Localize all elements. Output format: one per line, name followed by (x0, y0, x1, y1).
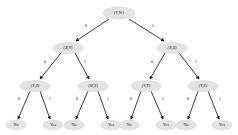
leaf-label: No (126, 122, 131, 127)
tree-edge: 0 (76, 91, 88, 119)
edge-label: 1 (84, 59, 87, 64)
tree-edge: 1 (75, 53, 89, 79)
tree-edge: 0 (76, 19, 109, 41)
tree-edge: 0 (130, 91, 141, 119)
tree-edge: 1 (98, 91, 110, 119)
edge-label: 0 (85, 23, 88, 28)
edge-label: 1 (107, 96, 110, 101)
tree-edge: 1 (129, 19, 164, 41)
tree-edge: 1 (40, 91, 52, 119)
decision-node[interactable]: (V,Y) (131, 80, 161, 91)
edge-arrow (75, 53, 89, 79)
tree-edge: 1 (208, 91, 222, 119)
decision-node[interactable]: (V,W) (103, 7, 135, 19)
leaf-node[interactable]: No (119, 120, 139, 130)
decision-node[interactable]: (X,Z) (157, 42, 187, 53)
decision-node[interactable]: (V,Z) (20, 80, 50, 91)
tree-edge: 0 (18, 91, 30, 119)
leaf-node[interactable]: Yes (101, 120, 121, 130)
nodes-layer: (V,W)(X,Y)(X,Z)(V,Z)(W,Z)(V,Y)(Y,Z)NoYes… (6, 7, 232, 130)
edge-label: 0 (76, 96, 79, 101)
edge-label: 1 (219, 96, 222, 101)
leaf-label: Yes (219, 122, 225, 127)
leaf-label: Yes (50, 122, 56, 127)
leaf-label: No (71, 122, 76, 127)
decision-node[interactable]: (Y,Z) (188, 80, 218, 91)
tree-edge: 0 (150, 53, 165, 79)
tree-edge: 0 (40, 53, 61, 79)
edge-arrow (131, 91, 141, 119)
tree-canvas: 01010101010101 (V,W)(X,Y)(X,Z)(V,Z)(W,Z)… (0, 0, 238, 135)
leaf-node[interactable]: No (176, 120, 196, 130)
tree-edge: 0 (187, 91, 198, 119)
edge-label: 1 (195, 59, 198, 64)
edge-label: 1 (162, 96, 165, 101)
edge-arrow (179, 53, 199, 79)
leaf-label: Yes (163, 122, 169, 127)
leaf-node[interactable]: Yes (212, 120, 232, 130)
decision-tree-diagram: 01010101010101 (V,W)(X,Y)(X,Z)(V,Z)(W,Z)… (0, 0, 238, 135)
leaf-label: No (183, 122, 188, 127)
edge-label: 1 (49, 96, 52, 101)
tree-edge: 1 (151, 91, 165, 119)
decision-node[interactable]: (W,Z) (78, 80, 108, 91)
edge-arrow (208, 91, 219, 119)
decision-node[interactable]: (X,Y) (53, 42, 83, 53)
edge-arrow (76, 19, 109, 41)
leaf-label: Yes (108, 122, 114, 127)
leaf-node[interactable]: Yes (43, 120, 63, 130)
edge-arrow (40, 53, 61, 79)
edges-layer: 01010101010101 (18, 19, 222, 119)
edge-arrow (150, 53, 165, 79)
leaf-node[interactable]: No (64, 120, 84, 130)
leaf-node[interactable]: Yes (156, 120, 176, 130)
edge-arrow (188, 91, 198, 119)
leaf-node[interactable]: No (6, 120, 26, 130)
edge-label: 0 (130, 96, 133, 101)
edge-arrow (129, 19, 164, 41)
edge-label: 0 (18, 96, 21, 101)
edge-label: 1 (152, 23, 155, 28)
leaf-label: No (13, 122, 18, 127)
edge-label: 0 (151, 59, 154, 64)
tree-edge: 1 (179, 53, 199, 79)
edge-label: 0 (44, 59, 47, 64)
edge-label: 0 (187, 96, 190, 101)
